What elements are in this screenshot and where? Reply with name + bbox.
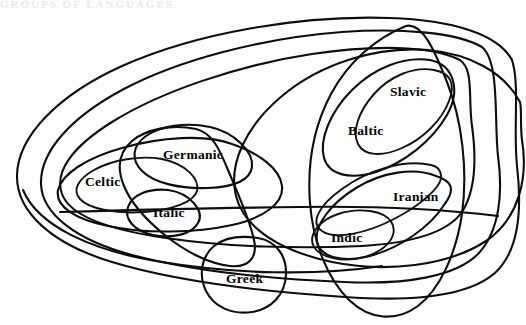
loop-eastern-sweep <box>234 49 524 267</box>
label-germanic: Germanic <box>163 148 223 162</box>
label-indic: Indic <box>331 231 363 245</box>
label-italic: Italic <box>153 206 185 220</box>
label-slavic: Slavic <box>390 85 426 99</box>
loop-lower-left-arc <box>23 190 382 272</box>
label-iranian: Iranian <box>393 190 439 204</box>
loop-centum-satem-mid <box>41 31 500 283</box>
label-baltic: Baltic <box>348 124 384 138</box>
loop-slavic <box>356 69 452 154</box>
euler-diagram-canvas: GROUPS OF LANGUAGES <box>0 0 526 325</box>
label-greek: Greek <box>226 272 263 286</box>
label-celtic: Celtic <box>85 175 121 189</box>
